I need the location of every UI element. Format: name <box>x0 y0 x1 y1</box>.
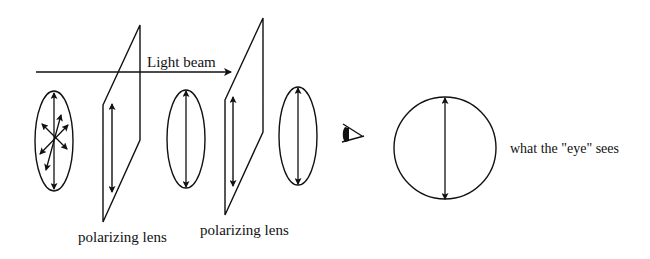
polarization-diagram: Light beam what the "eye" sees <box>0 0 650 259</box>
polarizer-2 <box>225 18 263 215</box>
random-vibration-arrows <box>40 93 68 189</box>
eye-icon <box>342 124 364 142</box>
light-beam-label: Light beam <box>147 54 216 70</box>
light-beam: Light beam <box>36 54 231 72</box>
eye-view: what the "eye" sees <box>394 97 619 199</box>
polarized-light-2 <box>279 87 317 185</box>
polarizer-2-label: polarizing lens <box>200 222 289 238</box>
eye-view-label: what the "eye" sees <box>510 141 619 156</box>
polarizer-1-label: polarizing lens <box>78 229 167 245</box>
unpolarized-light <box>35 91 73 191</box>
polarizer-1 <box>103 25 140 222</box>
polarized-light-1 <box>167 90 205 188</box>
